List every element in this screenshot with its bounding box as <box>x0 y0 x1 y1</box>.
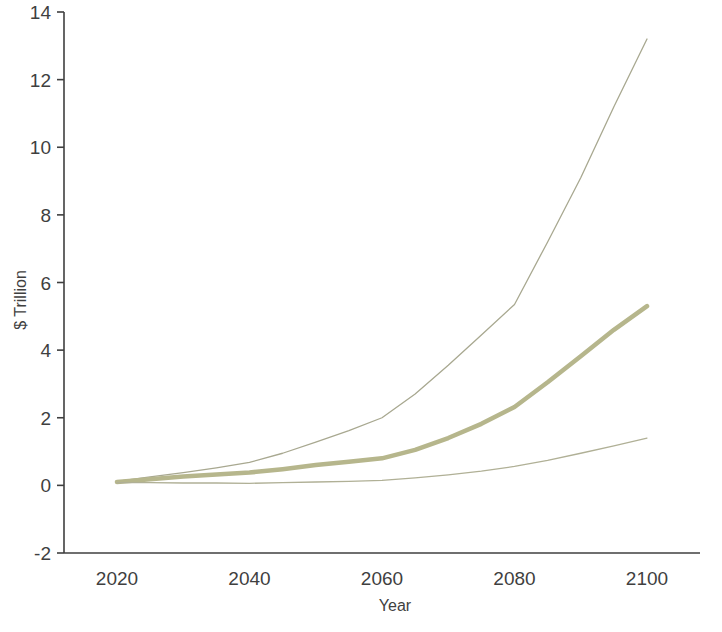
line-chart: -202468101214 20202040206020802100 Year … <box>0 0 722 632</box>
series-line-upper-bound <box>117 39 647 481</box>
y-axis-tick-label: 12 <box>30 70 51 91</box>
y-axis-ticks <box>57 12 64 553</box>
y-axis-tick-label: 4 <box>40 340 51 361</box>
x-axis-tick-labels: 20202040206020802100 <box>96 568 668 589</box>
x-axis-title: Year <box>379 597 412 614</box>
y-axis-tick-label: 0 <box>40 475 51 496</box>
y-axis-title: $ Trillion <box>12 270 29 330</box>
x-axis-tick-label: 2060 <box>361 568 403 589</box>
x-axis-tick-label: 2040 <box>228 568 270 589</box>
x-axis-tick-label: 2020 <box>96 568 138 589</box>
y-axis-tick-label: -2 <box>34 543 51 564</box>
y-axis-tick-label: 6 <box>40 273 51 294</box>
y-axis-tick-label: 2 <box>40 408 51 429</box>
y-axis-tick-labels: -202468101214 <box>30 2 52 564</box>
y-axis-tick-label: 10 <box>30 137 51 158</box>
y-axis-tick-label: 14 <box>30 2 52 23</box>
x-axis-tick-label: 2080 <box>493 568 535 589</box>
x-axis-tick-label: 2100 <box>626 568 668 589</box>
chart-container: -202468101214 20202040206020802100 Year … <box>0 0 722 632</box>
y-axis-tick-label: 8 <box>40 205 51 226</box>
series-lines <box>117 39 647 483</box>
